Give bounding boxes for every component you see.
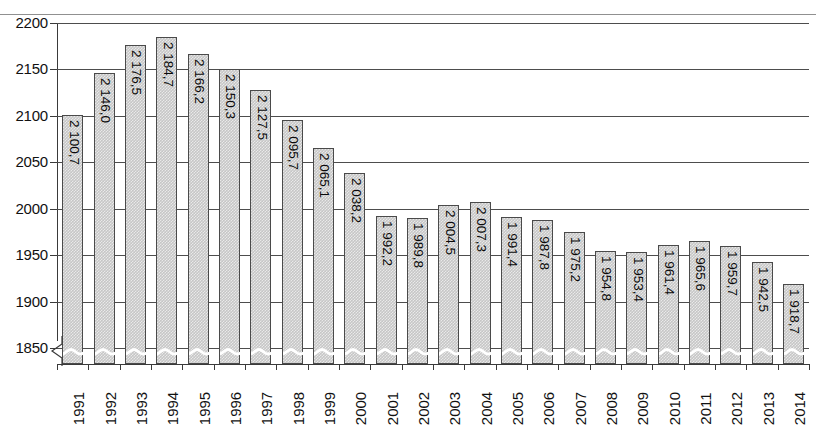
x-axis-label-2011: 2011	[689, 375, 710, 418]
top-divider-rule	[0, 14, 816, 15]
bar-break-mark	[95, 348, 116, 357]
y-tick-2150	[50, 69, 57, 70]
y-axis-label-1900: 1900	[15, 294, 48, 309]
y-axis-label-1950: 1950	[15, 247, 48, 262]
x-axis-label-1996: 1996	[219, 375, 240, 418]
x-axis-label-2002: 2002	[407, 375, 428, 418]
bar-value-label-2010: 1 961,4	[662, 250, 676, 295]
bar-break-mark	[408, 348, 429, 357]
x-tick-20	[684, 364, 685, 370]
x-axis-label-2001: 2001	[376, 375, 397, 418]
y-tick-2100	[50, 116, 57, 117]
bar-break-mark	[314, 348, 335, 357]
x-tick-22	[746, 364, 747, 370]
bar-value-label-1995: 2 166,2	[192, 59, 206, 104]
bar-2005[interactable]: 1 991,4	[501, 217, 522, 364]
bar-2001[interactable]: 1 992,2	[376, 216, 397, 364]
x-axis-label-2008: 2008	[595, 375, 616, 418]
bar-break-mark	[753, 348, 774, 357]
bar-value-label-1992: 2 146,0	[98, 78, 112, 123]
bar-break-mark	[251, 348, 272, 357]
x-tick-1	[88, 364, 89, 370]
y-axis-label-2050: 2050	[15, 154, 48, 169]
bar-1997[interactable]: 2 127,5	[250, 90, 271, 364]
bar-2008[interactable]: 1 954,8	[595, 251, 616, 364]
x-tick-7	[276, 364, 277, 370]
y-axis-tick-labels: 18501900195020002050210021502200	[0, 0, 48, 447]
bar-1999[interactable]: 2 065,1	[313, 148, 334, 364]
bar-break-mark	[377, 348, 398, 357]
y-tick-2050	[50, 162, 57, 163]
x-tick-21	[715, 364, 716, 370]
bar-2004[interactable]: 2 007,3	[470, 202, 491, 364]
x-axis-label-2004: 2004	[470, 375, 491, 418]
bar-2011[interactable]: 1 965,6	[689, 241, 710, 364]
x-axis-label-2014: 2014	[783, 375, 804, 418]
bar-break-mark	[502, 348, 523, 357]
bar-2006[interactable]: 1 987,8	[532, 220, 553, 364]
x-axis-label-2000: 2000	[344, 375, 365, 418]
x-tick-6	[245, 364, 246, 370]
y-tick-2000	[50, 209, 57, 210]
bar-2000[interactable]: 2 038,2	[344, 173, 365, 364]
bar-value-label-2013: 1 942,5	[756, 267, 770, 312]
bar-value-label-2012: 1 959,7	[725, 251, 739, 296]
bar-2013[interactable]: 1 942,5	[752, 262, 773, 364]
x-tick-5	[214, 364, 215, 370]
bar-1995[interactable]: 2 166,2	[188, 54, 209, 364]
bar-2003[interactable]: 2 004,5	[438, 205, 459, 364]
bar-1996[interactable]: 2 150,3	[219, 69, 240, 364]
x-tick-24	[809, 364, 810, 370]
x-tick-18	[621, 364, 622, 370]
bar-break-mark	[690, 348, 711, 357]
bar-1991[interactable]: 2 100,7	[62, 115, 83, 364]
x-tick-19	[652, 364, 653, 370]
bar-value-label-2007: 1 975,2	[568, 237, 582, 282]
x-tick-15	[527, 364, 528, 370]
gridline-2200	[57, 23, 809, 24]
bar-chart: 18501900195020002050210021502200 2 100,7…	[0, 0, 816, 447]
x-axis-label-1995: 1995	[188, 375, 209, 418]
bar-value-label-2001: 1 992,2	[380, 221, 394, 266]
bar-2012[interactable]: 1 959,7	[720, 246, 741, 364]
bar-break-mark	[189, 348, 210, 357]
bar-1993[interactable]: 2 176,5	[125, 45, 146, 364]
x-tick-13	[464, 364, 465, 370]
plot-area: 2 100,72 146,02 176,52 184,72 166,22 150…	[57, 23, 809, 364]
bar-break-mark	[345, 348, 366, 357]
y-tick-2200	[50, 23, 57, 24]
x-axis-label-1999: 1999	[313, 375, 334, 418]
bar-2009[interactable]: 1 953,4	[626, 252, 647, 364]
bar-value-label-2003: 2 004,5	[443, 210, 457, 255]
x-tick-14	[496, 364, 497, 370]
x-tick-10	[370, 364, 371, 370]
bar-value-label-1996: 2 150,3	[224, 74, 238, 119]
bar-1992[interactable]: 2 146,0	[94, 73, 115, 364]
bar-value-label-2006: 1 987,8	[537, 225, 551, 270]
bar-break-mark	[439, 348, 460, 357]
bar-break-mark	[220, 348, 241, 357]
x-axis-label-2010: 2010	[658, 375, 679, 418]
x-axis-label-1997: 1997	[250, 375, 271, 418]
y-tick-1900	[50, 302, 57, 303]
x-axis-label-1992: 1992	[94, 375, 115, 418]
bar-value-label-2014: 1 918,7	[788, 289, 802, 334]
bar-value-label-1994: 2 184,7	[161, 42, 175, 87]
y-axis-label-1850: 1850	[15, 340, 48, 355]
y-axis-label-2200: 2200	[15, 15, 48, 30]
bar-1998[interactable]: 2 095,7	[282, 120, 303, 364]
bar-2007[interactable]: 1 975,2	[564, 232, 585, 364]
bar-2010[interactable]: 1 961,4	[658, 245, 679, 364]
bar-2014[interactable]: 1 918,7	[783, 284, 804, 364]
y-axis-label-2000: 2000	[15, 201, 48, 216]
bar-1994[interactable]: 2 184,7	[156, 37, 177, 364]
bar-break-mark	[533, 348, 554, 357]
x-tick-11	[402, 364, 403, 370]
bar-value-label-2008: 1 954,8	[600, 256, 614, 301]
bar-break-mark	[126, 348, 147, 357]
bar-2002[interactable]: 1 989,8	[407, 218, 428, 364]
bar-value-label-2005: 1 991,4	[506, 222, 520, 267]
x-axis-label-1998: 1998	[282, 375, 303, 418]
x-axis-label-1991: 1991	[62, 375, 83, 418]
x-tick-8	[308, 364, 309, 370]
